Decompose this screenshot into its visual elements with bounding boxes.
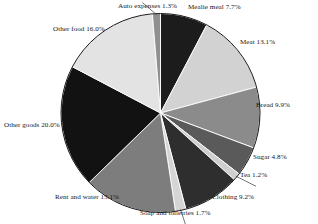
pie-label-mealie-meal: Mealie meal 7.7% xyxy=(188,3,241,11)
pie-label-clothing: Clothing 9.2% xyxy=(212,193,254,201)
pie-slice-group xyxy=(61,13,260,212)
pie-label-sugar: Sugar 4.8% xyxy=(253,153,287,161)
pie-label-bread: Bread 9.9% xyxy=(256,101,290,109)
pie-label-soap-and-toiletries: Soap and toiletries 1.7% xyxy=(140,209,211,217)
pie-chart-canvas xyxy=(0,0,318,224)
pie-chart-figure: Auto expenses 1.3% Mealie meal 7.7% Meat… xyxy=(0,0,318,224)
pie-label-other-food: Other food 16.0% xyxy=(53,25,105,33)
pie-label-meat: Meat 13.1% xyxy=(240,38,275,46)
pie-label-other-goods: Other goods 20.0% xyxy=(4,121,60,129)
pie-label-auto-expenses: Auto expenses 1.3% xyxy=(118,2,177,10)
pie-label-tea: Tea 1.2% xyxy=(240,171,267,179)
pie-label-rent-and-water: Rent and water 15.1% xyxy=(55,193,119,201)
